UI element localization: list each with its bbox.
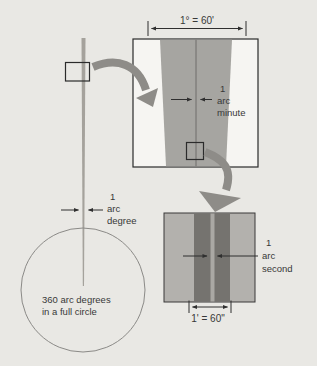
arc-degree-label-line3: degree <box>107 215 137 226</box>
arc-second-strip <box>211 214 215 302</box>
arc-second-label-line2: arc <box>262 250 275 261</box>
arc-degree-label-line1: 1 <box>110 191 115 202</box>
arc-second-label-line1: 1 <box>266 237 271 248</box>
arc-units-diagram: 360 arc degrees in a full circle 1 arc d… <box>0 0 317 366</box>
arc-minute-label-line1: 1 <box>220 83 225 94</box>
arc-degree-label-line2: arc <box>107 203 120 214</box>
diagram-canvas: 360 arc degrees in a full circle 1 arc d… <box>0 0 317 366</box>
arc-minute-label-line2: arc <box>217 95 230 106</box>
arc-minute-label-line3: minute <box>217 107 246 118</box>
arc-second-label-line3: second <box>262 263 293 274</box>
minute-ruler-label: 1' = 60" <box>191 313 225 324</box>
degree-ruler-label: 1° = 60' <box>180 15 214 26</box>
circle-caption-line2: in a full circle <box>42 306 97 317</box>
circle-caption-line1: 360 arc degrees <box>42 294 111 305</box>
